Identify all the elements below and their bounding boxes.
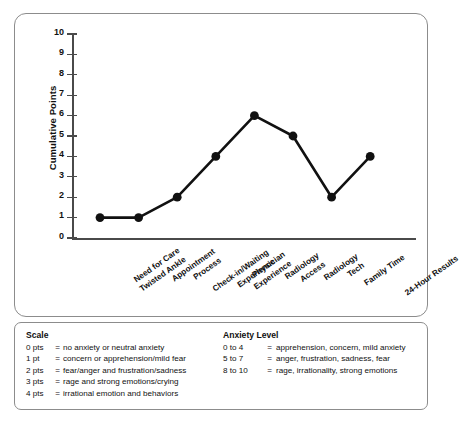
top-caption — [0, 0, 446, 11]
y-tick-4: 4 — [67, 156, 77, 157]
x-axis-line — [72, 238, 416, 240]
data-point — [327, 193, 336, 202]
legend-scale-equals: = — [52, 342, 63, 353]
legend-scale-equals: = — [52, 353, 63, 364]
legend-scale-row: 3 pts=rage and strong emotions/crying — [26, 376, 221, 387]
data-point — [96, 213, 105, 222]
y-tick-label-5: 5 — [59, 129, 64, 139]
y-tick-label-10: 10 — [54, 27, 64, 37]
legend-anxiety-key: 8 to 10 — [223, 365, 263, 376]
y-tick-label-3: 3 — [59, 170, 64, 180]
x-axis-label-6: Family Time — [362, 253, 407, 289]
y-tick-label-9: 9 — [59, 47, 64, 57]
legend-scale-row: 4 pts=irrational emotion and behaviors — [26, 388, 221, 399]
y-tick-9: 9 — [67, 54, 77, 55]
legend-scale-description: concern or apprehension/mild fear — [63, 353, 186, 364]
y-tick-label-0: 0 — [59, 231, 64, 241]
data-point — [250, 111, 259, 120]
data-point — [173, 193, 182, 202]
legend-scale-description: fear/anger and frustration/sadness — [63, 365, 186, 376]
x-axis-label-4: RadiologyAccess — [284, 251, 328, 291]
chart-panel: Cumulative Points 109876543210 Need for … — [14, 13, 428, 317]
data-point — [134, 213, 143, 222]
legend-anxiety-key: 5 to 7 — [223, 353, 263, 364]
legend-scale-description: no anxiety or neutral anxiety — [63, 342, 164, 353]
x-axis-label-7: 24-Hour Results — [404, 254, 461, 299]
legend-scale-rows: 0 pts=no anxiety or neutral anxiety1 pt=… — [26, 342, 221, 399]
legend-scale-key: 3 pts — [26, 376, 52, 387]
x-axis-labels: Need for CareTwisted AnkleAppointmentPro… — [15, 242, 429, 318]
data-point — [211, 152, 220, 161]
legend-anxiety-equals: = — [263, 342, 276, 353]
y-tick-0: 0 — [67, 237, 77, 238]
legend-scale-key: 2 pts — [26, 365, 52, 376]
legend-anxiety-equals: = — [263, 365, 276, 376]
data-point — [289, 132, 298, 141]
y-tick-10: 10 — [67, 33, 77, 34]
legend-scale-key: 1 pt — [26, 353, 52, 364]
legend-anxiety-row: 5 to 7=anger, frustration, sadness, fear — [223, 353, 423, 364]
legend-anxiety-row: 8 to 10=rage, irrationality, strong emot… — [223, 365, 423, 376]
y-tick-label-6: 6 — [59, 108, 64, 118]
y-tick-6: 6 — [67, 115, 77, 116]
legend-anxiety-description: apprehension, concern, mild anxiety — [276, 342, 406, 353]
legend-scale-key: 4 pts — [26, 388, 52, 399]
legend-scale-row: 1 pt=concern or apprehension/mild fear — [26, 353, 221, 364]
y-axis-title: Cumulative Points — [47, 68, 58, 188]
legend-anxiety-row: 0 to 4=apprehension, concern, mild anxie… — [223, 342, 423, 353]
legend-scale-row: 2 pts=fear/anger and frustration/sadness — [26, 365, 221, 376]
legend-scale-title: Scale — [26, 330, 221, 340]
legend-anxiety-equals: = — [263, 353, 276, 364]
legend-anxiety-column: Anxiety Level 0 to 4=apprehension, conce… — [223, 330, 423, 376]
data-point — [366, 152, 375, 161]
x-axis-label-line: 24-Hour Results — [404, 254, 461, 299]
y-tick-label-8: 8 — [59, 68, 64, 78]
legend-scale-equals: = — [52, 388, 63, 399]
legend-scale-row: 0 pts=no anxiety or neutral anxiety — [26, 342, 221, 353]
y-tick-label-2: 2 — [59, 190, 64, 200]
legend-scale-description: rage and strong emotions/crying — [63, 376, 179, 387]
y-tick-7: 7 — [67, 95, 77, 96]
x-axis-label-line: Family Time — [362, 253, 407, 289]
y-tick-5: 5 — [67, 135, 77, 136]
y-tick-label-4: 4 — [59, 149, 64, 159]
legend-scale-equals: = — [52, 365, 63, 376]
legend-scale-column: Scale 0 pts=no anxiety or neutral anxiet… — [26, 330, 221, 399]
legend-anxiety-description: anger, frustration, sadness, fear — [276, 353, 390, 364]
legend-scale-key: 0 pts — [26, 342, 52, 353]
y-tick-label-7: 7 — [59, 88, 64, 98]
y-tick-3: 3 — [67, 176, 77, 177]
legend-panel: Scale 0 pts=no anxiety or neutral anxiet… — [14, 322, 428, 410]
legend-anxiety-rows: 0 to 4=apprehension, concern, mild anxie… — [223, 342, 423, 376]
y-tick-2: 2 — [67, 197, 77, 198]
legend-anxiety-title: Anxiety Level — [223, 330, 423, 340]
legend-anxiety-key: 0 to 4 — [223, 342, 263, 353]
plot-area: Cumulative Points 109876543210 Need for … — [15, 14, 429, 318]
legend-scale-description: irrational emotion and behaviors — [63, 388, 178, 399]
y-tick-1: 1 — [67, 217, 77, 218]
y-tick-label-1: 1 — [59, 210, 64, 220]
legend-scale-equals: = — [52, 376, 63, 387]
y-tick-8: 8 — [67, 74, 77, 75]
legend-anxiety-description: rage, irrationality, strong emotions — [276, 365, 397, 376]
x-axis-label-5: RadiologyTech — [322, 252, 366, 292]
